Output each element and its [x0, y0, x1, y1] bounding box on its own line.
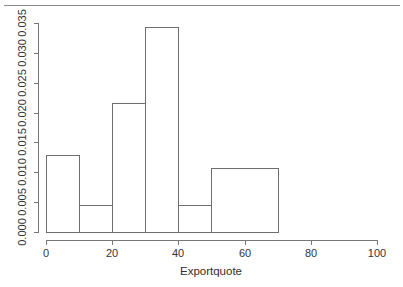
bar-20-30 — [113, 104, 146, 233]
histogram-bars — [47, 28, 279, 233]
x-tick-label-5: 100 — [368, 247, 386, 259]
y-tick-label-6: 0.030 — [16, 39, 28, 67]
y-tick-label-0: 0.000 — [16, 218, 28, 246]
x-axis-title: Exportquote — [180, 265, 242, 277]
bar-30-40 — [146, 28, 179, 233]
y-tick-label-4: 0.020 — [16, 99, 28, 127]
y-tick-labels: 0.000 0.005 0.010 0.015 0.020 0.025 0.03… — [16, 9, 28, 246]
x-tick-label-4: 80 — [305, 247, 317, 259]
x-tick-label-2: 40 — [172, 247, 184, 259]
y-tick-label-7: 0.035 — [16, 9, 28, 37]
y-tick-label-5: 0.025 — [16, 69, 28, 97]
histogram-figure: 0.000 0.005 0.010 0.015 0.020 0.025 0.03… — [0, 0, 403, 287]
bar-50-70 — [212, 169, 279, 233]
x-axis — [46, 241, 378, 246]
x-tick-label-1: 20 — [106, 247, 118, 259]
y-axis — [34, 23, 39, 233]
bar-10-20 — [80, 206, 113, 233]
bar-0-10 — [47, 156, 80, 233]
bar-40-50 — [179, 206, 212, 233]
y-tick-label-1: 0.005 — [16, 188, 28, 216]
y-tick-label-2: 0.010 — [16, 158, 28, 186]
x-tick-label-3: 60 — [239, 247, 251, 259]
histogram-plot: 0.000 0.005 0.010 0.015 0.020 0.025 0.03… — [0, 0, 403, 287]
x-tick-label-0: 0 — [43, 247, 49, 259]
x-tick-labels: 0 20 40 60 80 100 — [43, 247, 386, 259]
y-tick-label-3: 0.015 — [16, 128, 28, 156]
